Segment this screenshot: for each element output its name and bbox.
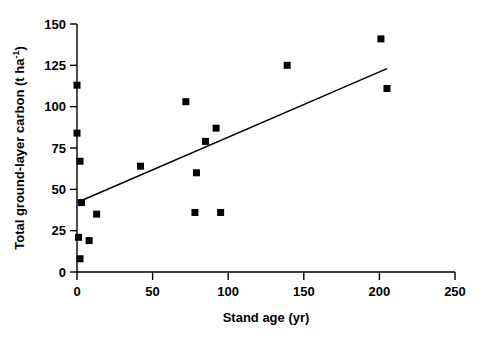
x-tick-label: 0 [73,284,80,299]
y-axis-label-tail: ) [12,46,27,50]
data-point [77,255,84,262]
data-point [93,211,100,218]
data-point [213,125,220,132]
scatter-plot: 0255075100125150 050100150200250 Stand a… [0,0,487,338]
y-axis-label-main: Total ground-layer carbon (t ha [12,58,27,250]
data-point [182,98,189,105]
regression-trend-line [77,69,387,203]
x-tick-label: 100 [217,284,239,299]
y-tick-label: 100 [44,99,66,114]
y-axis-label-superscript: -1 [11,51,21,59]
y-tick-label: 150 [44,17,66,32]
x-axis-label: Stand age (yr) [223,310,310,325]
data-point [75,234,82,241]
data-point [74,130,81,137]
data-point-markers [74,35,391,262]
data-point [202,138,209,145]
x-axis-ticks [77,272,455,280]
data-point [284,62,291,69]
data-point [377,35,384,42]
data-point [217,209,224,216]
data-point [191,209,198,216]
y-tick-label: 75 [52,141,66,156]
data-point [77,158,84,165]
y-tick-label: 0 [59,265,66,280]
data-point [137,163,144,170]
x-tick-label: 200 [369,284,391,299]
x-axis-tick-labels: 050100150200250 [73,284,465,299]
data-point [193,169,200,176]
y-axis-tick-labels: 0255075100125150 [44,17,66,280]
data-point [74,82,81,89]
x-tick-label: 150 [293,284,315,299]
x-tick-label: 50 [145,284,159,299]
axes-group [77,24,455,272]
y-tick-label: 50 [52,182,66,197]
y-axis-label: Total ground-layer carbon (t ha-1) [11,46,27,250]
y-tick-label: 25 [52,223,66,238]
y-axis-label-group: Total ground-layer carbon (t ha-1) [11,46,27,250]
x-tick-label: 250 [444,284,466,299]
data-point [78,199,85,206]
data-point [86,237,93,244]
data-point [383,85,390,92]
y-tick-label: 125 [44,58,66,73]
chart-figure: 0255075100125150 050100150200250 Stand a… [0,0,487,338]
